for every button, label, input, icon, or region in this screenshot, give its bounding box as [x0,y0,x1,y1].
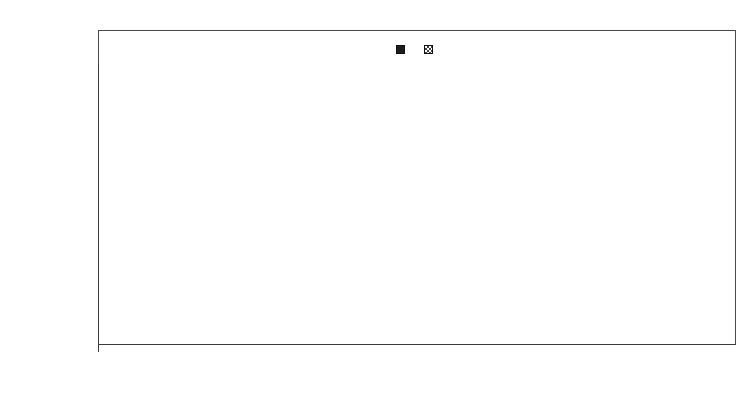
chart-container [0,0,752,416]
bars-layer [0,0,752,416]
x-axis-labels [0,356,752,412]
